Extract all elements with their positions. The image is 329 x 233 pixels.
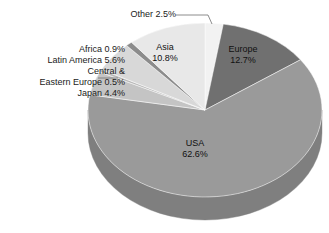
slice-label-other: Other 2.5% — [100, 9, 176, 20]
slice-label-asia: Asia 10.8% — [138, 42, 192, 63]
pie-chart-graphic — [0, 0, 329, 233]
slice-label-usa: USA 62.6% — [168, 138, 222, 159]
pie-chart-figure: Africa 0.9% Latin America 5.6% Central &… — [0, 0, 329, 233]
leader-line-other — [176, 15, 212, 24]
slice-label-central-eastern-europe: Central & Eastern Europe 0.5% — [2, 66, 125, 87]
slice-label-africa: Africa 0.9% — [10, 44, 125, 55]
slice-label-europe: Europe 12.7% — [216, 44, 270, 65]
slice-label-latin-america: Latin America 5.6% — [2, 55, 125, 66]
slice-label-japan: Japan 4.4% — [2, 88, 125, 99]
